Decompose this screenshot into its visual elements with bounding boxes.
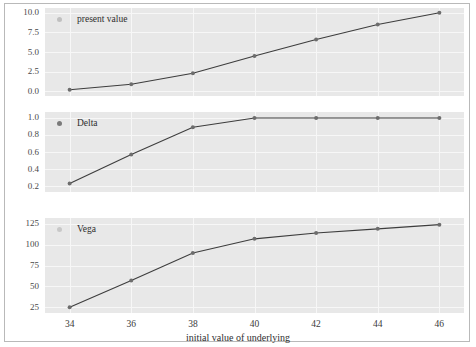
- x-tick-label: 34: [55, 319, 85, 329]
- legend-present-value: present value: [57, 14, 127, 24]
- y-tick-label: 25: [9, 303, 39, 312]
- y-tick-label: 10.0: [9, 8, 39, 17]
- data-point: [314, 116, 318, 120]
- data-point: [376, 23, 380, 27]
- x-tick-label: 46: [424, 319, 454, 329]
- data-point: [191, 251, 195, 255]
- y-tick-label: 0.2: [9, 182, 39, 191]
- y-tick-label: 2.5: [9, 67, 39, 76]
- legend-label: Delta: [77, 118, 98, 128]
- data-point: [253, 54, 257, 58]
- plot-panel-vega: [45, 218, 464, 313]
- y-tick-label: 75: [9, 261, 39, 270]
- data-point: [68, 181, 72, 185]
- data-point: [437, 116, 441, 120]
- series-vega: [45, 218, 464, 313]
- data-point: [376, 116, 380, 120]
- x-axis-title: initial value of underlying: [0, 332, 476, 343]
- y-tick-label: 5.0: [9, 48, 39, 57]
- legend-marker-icon: [57, 227, 62, 232]
- series-delta: [45, 112, 464, 192]
- legend-marker-icon: [57, 17, 62, 22]
- x-tick-label: 44: [363, 319, 393, 329]
- data-point: [314, 231, 318, 235]
- data-point: [129, 82, 133, 86]
- data-point: [253, 116, 257, 120]
- y-tick-label: 0.0: [9, 87, 39, 96]
- x-tick-label: 36: [116, 319, 146, 329]
- data-point: [129, 279, 133, 283]
- x-tick-label: 42: [301, 319, 331, 329]
- y-tick-label: 0.6: [9, 148, 39, 157]
- y-tick-label: 0.4: [9, 165, 39, 174]
- plot-panel-delta: [45, 112, 464, 192]
- legend-label: Vega: [77, 224, 96, 234]
- y-tick-label: 100: [9, 240, 39, 249]
- y-tick-label: 125: [9, 219, 39, 228]
- data-point: [437, 223, 441, 227]
- legend-marker-icon: [57, 121, 62, 126]
- y-tick-label: 7.5: [9, 28, 39, 37]
- y-tick-label: 0.8: [9, 130, 39, 139]
- data-point: [129, 153, 133, 157]
- data-point: [68, 305, 72, 309]
- data-point: [314, 37, 318, 41]
- data-point: [191, 71, 195, 75]
- data-point: [437, 11, 441, 15]
- legend-vega: Vega: [57, 224, 96, 234]
- data-point: [376, 227, 380, 231]
- data-point: [68, 88, 72, 92]
- data-point: [253, 237, 257, 241]
- legend-delta: Delta: [57, 118, 98, 128]
- legend-label: present value: [77, 14, 127, 24]
- data-point: [191, 125, 195, 129]
- x-tick-label: 40: [240, 319, 270, 329]
- y-tick-label: 50: [9, 282, 39, 291]
- y-tick-label: 1.0: [9, 113, 39, 122]
- x-tick-label: 38: [178, 319, 208, 329]
